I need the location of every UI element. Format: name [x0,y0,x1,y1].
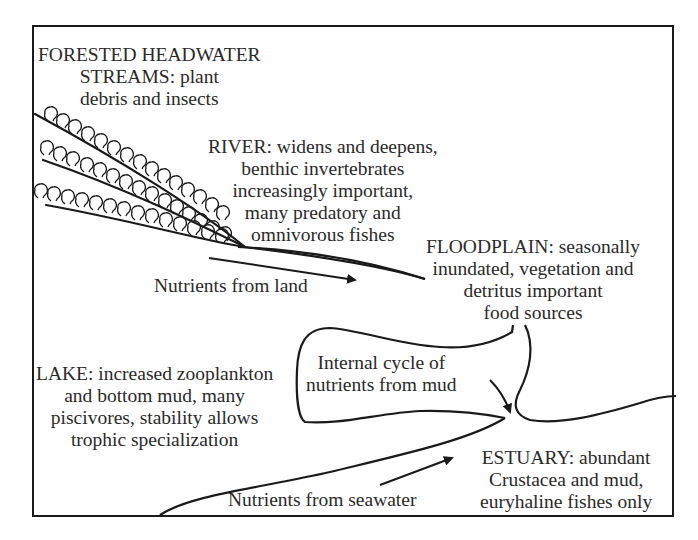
label-line: nutrients from mud [306,374,457,396]
label-line: omnivorous fishes [208,224,438,246]
label-line: detritus important [426,280,640,302]
nutrients-from-land-label: Nutrients from land [154,275,308,297]
label-line: piscivores, stability allows [36,407,273,429]
forested-headwater-label: FORESTED HEADWATER STREAMS: plant debris… [38,44,261,110]
nutrients-from-seawater-label: Nutrients from seawater [228,489,416,511]
label-line: LAKE: increased zooplankton [36,363,273,385]
label-line: many predatory and [208,202,438,224]
river-label: RIVER: widens and deepens, benthic inver… [208,136,438,246]
estuary-label: ESTUARY: abundant Crustacea and mud, eur… [480,447,652,513]
label-line: Nutrients from land [154,275,308,297]
label-line: Crustacea and mud, [480,469,652,491]
label-line: RIVER: widens and deepens, [208,136,438,158]
nutrients-from-seawater-arrow [380,458,452,485]
lake-label: LAKE: increased zooplankton and bottom m… [36,363,273,451]
label-line: increasingly important, [208,180,438,202]
label-line: Internal cycle of [306,352,457,374]
internal-cycle-label: Internal cycle of nutrients from mud [306,352,457,396]
label-line: ESTUARY: abundant [480,447,652,469]
label-line: Nutrients from seawater [228,489,416,511]
floodplain-shore [516,325,676,421]
label-line: food sources [426,302,640,324]
internal-cycle-arrow [490,380,510,412]
label-line: STREAMS: plant [38,66,261,88]
label-line: FORESTED HEADWATER [38,44,261,66]
label-line: FLOODPLAIN: seasonally [426,236,640,258]
label-line: euryhaline fishes only [480,491,652,513]
floodplain-label: FLOODPLAIN: seasonally inundated, vegeta… [426,236,640,324]
label-line: trophic specialization [36,429,273,451]
label-line: and bottom mud, many [36,385,273,407]
label-line: debris and insects [38,88,261,110]
label-line: benthic invertebrates [208,158,438,180]
label-line: inundated, vegetation and [426,258,640,280]
